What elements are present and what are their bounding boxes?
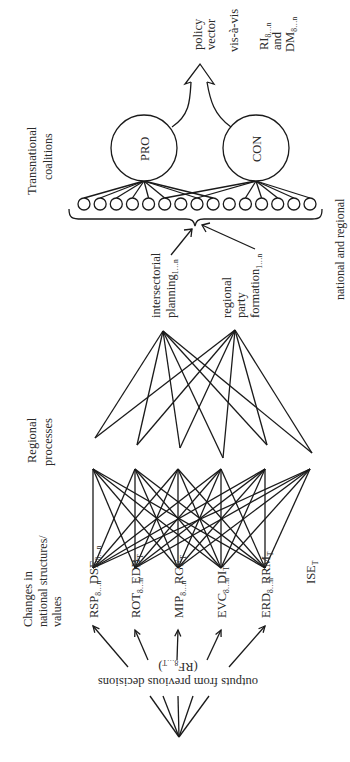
coalitions-heading-2: coalitions — [41, 133, 55, 180]
planning-main: planning — [164, 274, 178, 318]
regional-node-sub: T — [266, 551, 275, 556]
regional-party-formation-label: regional party formation1…n — [220, 253, 264, 318]
regional-node-sub: T — [311, 560, 320, 565]
coalitions-heading-1: Transnational — [25, 126, 39, 195]
dm-label: DM8…n — [283, 17, 299, 52]
regional-node-label: DSE8…n — [87, 545, 103, 584]
national-node-main: MIP — [172, 596, 186, 618]
national-node-sub: 8…n — [136, 578, 145, 593]
rf-close: ) — [158, 660, 162, 674]
regional-heading-1: Regional — [25, 417, 39, 463]
planning-arrow — [171, 229, 192, 255]
regional-node-sub: T — [179, 555, 188, 560]
arrow-head — [185, 64, 214, 84]
actor-node — [159, 198, 171, 210]
national-node-sub: 8…n — [222, 578, 231, 593]
actor-node — [110, 198, 122, 210]
rf-main: (RF — [178, 660, 198, 674]
intersectorial-planning-label: intersectorial planning1…n — [149, 252, 180, 318]
policy-vector-label: policy vector vis-à-vis RI8…n and DM8…n — [191, 9, 299, 52]
and-word: and — [270, 31, 284, 50]
brace-label: national and regional — [333, 198, 347, 300]
planning-sub: 1…n — [171, 259, 180, 274]
output-arrow — [93, 626, 128, 667]
fan-edge — [179, 696, 209, 737]
national-node-main: EVC — [215, 593, 229, 618]
national-node-main: ROT — [129, 593, 143, 618]
actor-node — [126, 198, 138, 210]
output-arrow — [135, 630, 148, 660]
pro-edge — [84, 181, 144, 198]
formation-sub: 1…n — [255, 253, 264, 268]
vis-a-vis-word: vis-à-vis — [227, 9, 241, 52]
actor-node — [223, 198, 235, 210]
outputs-label: outputs from previous decisions (RF8…T) — [98, 658, 258, 689]
con-label: CON — [250, 136, 264, 162]
actor-node — [304, 198, 316, 210]
ri-main: RI — [257, 38, 271, 51]
fan-edge — [179, 696, 193, 737]
influence-edge — [135, 469, 310, 568]
national-node-main: ERD — [259, 593, 273, 618]
dm-main: DM — [283, 32, 297, 52]
national-change-labels: RSP8…nROT8…nMIP8…nEVC8…nERD8…n — [87, 578, 275, 618]
dm-sub: 8…n — [290, 17, 299, 32]
outputs-line1: outputs from previous decisions — [98, 675, 258, 689]
actor-node — [191, 198, 203, 210]
actor-node — [143, 198, 155, 210]
national-node-label: MIP8…n — [172, 581, 188, 618]
national-node-sub: 8…n — [266, 578, 275, 593]
actor-node — [78, 198, 90, 210]
regional-node-sub: 8…n — [94, 545, 103, 560]
decision-source-fan — [150, 696, 209, 737]
planning-edge — [163, 331, 312, 453]
influence-edge — [178, 469, 310, 568]
intersectorial-word: intersectorial — [149, 252, 163, 318]
output-arrow — [177, 630, 178, 660]
pro-label: PRO — [138, 137, 152, 161]
national-heading-3: values — [50, 596, 64, 627]
con-node: CON — [223, 115, 289, 181]
regional-to-source-edges — [95, 330, 312, 458]
fan-edge — [163, 696, 179, 737]
fan-edge — [150, 696, 179, 737]
actor-node — [207, 198, 219, 210]
national-heading-1: Changes in — [21, 570, 35, 627]
formation-main: formation — [248, 268, 262, 318]
regional-node-main: ISE — [304, 565, 318, 584]
national-node-main: RSP — [87, 596, 101, 618]
national-node-sub: 8…n — [179, 581, 188, 596]
arrow-right-shaft — [207, 82, 231, 127]
party-edge — [223, 330, 235, 458]
national-regional-actors — [78, 198, 316, 210]
party-word: party — [234, 292, 248, 318]
decision-flow-diagram: policy vector vis-à-vis RI8…n and DM8…n … — [0, 0, 350, 762]
con-edge — [256, 181, 310, 198]
regional-heading-2: processes — [41, 418, 55, 466]
national-node-sub: 8…n — [94, 581, 103, 596]
actor-node — [175, 198, 187, 210]
fan-edge — [178, 696, 179, 737]
national-heading-2: national structures/ — [36, 535, 50, 627]
policy-arrow — [172, 64, 231, 127]
actor-node — [94, 198, 106, 210]
actor-node — [272, 198, 284, 210]
rf-sub: 8…T — [162, 658, 178, 667]
actor-node — [256, 198, 268, 210]
actor-node — [239, 198, 251, 210]
national-to-regional-edges — [93, 469, 310, 568]
grouping-brace — [69, 209, 322, 226]
regional-node-main: RGF — [172, 560, 186, 584]
party-arrow — [202, 225, 255, 249]
regional-node-label: ISET — [304, 560, 320, 584]
party-edge — [235, 330, 312, 453]
planning-edge — [95, 331, 163, 438]
planning-word: planning1…n — [164, 259, 180, 318]
regional-node-main: DSE — [87, 560, 101, 584]
arrow-left-shaft — [172, 82, 191, 127]
actor-node — [288, 198, 300, 210]
formation-word: formation1…n — [248, 253, 264, 318]
output-arrow — [229, 626, 265, 667]
mid-arrows — [171, 223, 255, 255]
party-edge — [180, 330, 235, 448]
